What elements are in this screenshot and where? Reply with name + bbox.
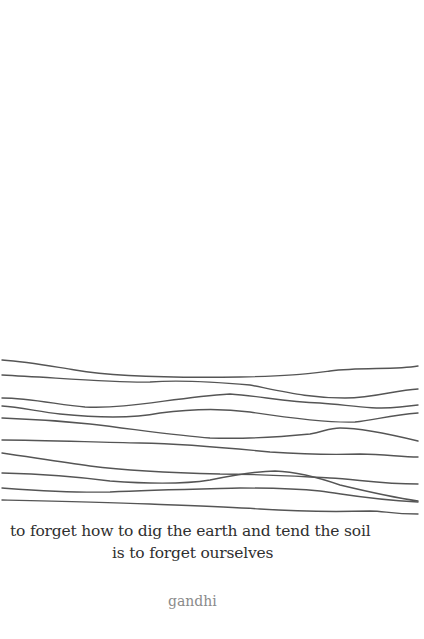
wavy-line-10: [2, 500, 418, 514]
wavy-line-9: [2, 488, 418, 502]
poem-page: to forget how to dig the earth and tend …: [0, 0, 424, 639]
wavy-line-1: [2, 360, 418, 377]
poem-author: gandhi: [168, 593, 217, 609]
wavy-line-4: [2, 406, 418, 422]
wavy-line-2: [2, 375, 418, 398]
poem-line-1: to forget how to dig the earth and tend …: [10, 522, 380, 540]
wavy-line-3: [2, 394, 418, 408]
poem-line-2: is to forget ourselves: [112, 544, 312, 562]
wavy-line-6: [2, 440, 418, 457]
